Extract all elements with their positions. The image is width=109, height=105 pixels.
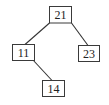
edge-11-to-14 <box>33 60 52 81</box>
node-label: 11 <box>18 46 30 60</box>
edge-21-to-11 <box>25 23 50 45</box>
node-label: 14 <box>48 82 60 96</box>
tree-node-21: 21 <box>50 7 72 24</box>
node-label: 23 <box>83 47 95 61</box>
node-label: 21 <box>55 8 67 22</box>
binary-tree-diagram: 21 11 23 14 <box>0 0 109 105</box>
tree-node-14: 14 <box>43 81 65 97</box>
tree-node-11: 11 <box>13 45 35 61</box>
tree-node-23: 23 <box>79 46 100 62</box>
edge-21-to-23 <box>72 23 89 46</box>
